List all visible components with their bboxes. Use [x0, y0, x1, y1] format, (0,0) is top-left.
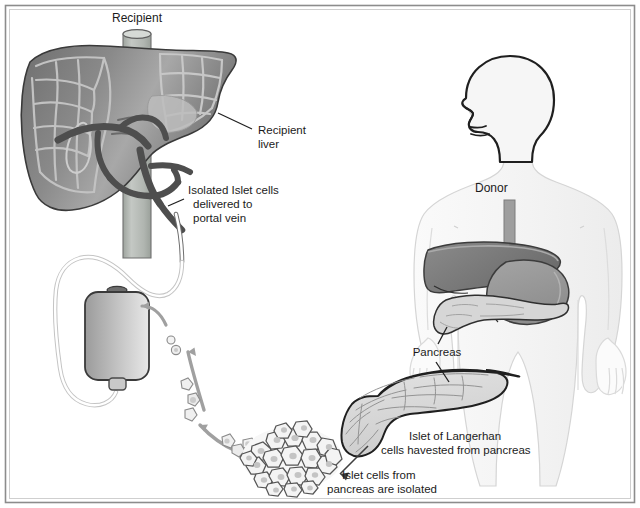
label-islet-isolated-line2: pancreas are isolated — [327, 483, 437, 495]
label-recipient-liver-line1: Recipient — [258, 124, 307, 136]
label-donor: Donor — [475, 181, 508, 195]
label-isolated-islet-line1: Isolated Islet cells — [188, 184, 279, 196]
label-islet-isolated-line1: Islet cells from — [342, 469, 416, 481]
islet-transplant-figure: Recipient Recipient liver Isolated Islet… — [0, 0, 640, 508]
label-isolated-islet-line2: delivered to — [193, 198, 252, 210]
label-isolated-islet-line3: portal vein — [193, 212, 246, 224]
label-pancreas: Pancreas — [413, 346, 462, 358]
label-islet-harvest-line1: Islet of Langerhan — [409, 430, 501, 442]
iv-bag — [85, 286, 149, 390]
label-islet-harvest-line2: cells havested from pancreas — [381, 444, 531, 456]
label-recipient-liver-line2: liver — [258, 138, 279, 150]
label-recipient: Recipient — [112, 11, 163, 25]
diagram-canvas: Recipient Recipient liver Isolated Islet… — [0, 0, 640, 508]
